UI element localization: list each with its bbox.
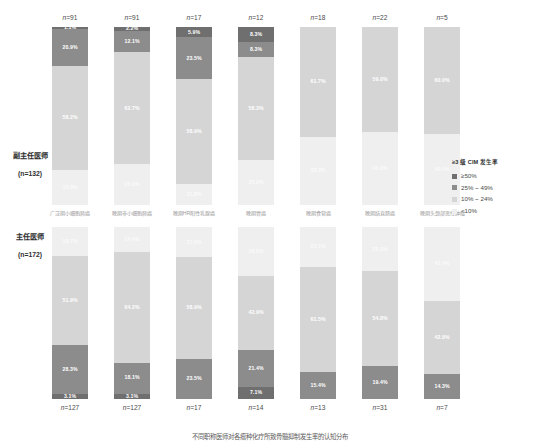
bar-segment[interactable]: 7.1%: [238, 387, 274, 399]
bar-segment-label: 8.3%: [250, 47, 262, 52]
stacked-bar[interactable]: 59.0%41.0%: [362, 27, 398, 205]
stacked-bar[interactable]: 25.8%54.8%19.4%: [362, 227, 398, 399]
bar-segment[interactable]: 21.4%: [238, 350, 274, 387]
bar-segment[interactable]: 58.9%: [176, 79, 212, 184]
bar-segment[interactable]: 61.7%: [300, 27, 336, 137]
bar-segment[interactable]: 25.0%: [238, 160, 274, 205]
stacked-bar[interactable]: 1.1%20.9%58.2%19.8%: [52, 27, 88, 205]
bar-segment[interactable]: 20.9%: [52, 29, 88, 66]
bar-segment-label: 21.4%: [248, 366, 263, 371]
bar-segment[interactable]: 19.8%: [52, 170, 88, 205]
bar-segment-label: 58.3%: [248, 106, 263, 111]
bar-segment[interactable]: 8.3%: [238, 42, 274, 57]
bar-segment[interactable]: 42.9%: [238, 276, 274, 350]
bar-segment-label: 42.9%: [434, 335, 449, 340]
stacked-bar[interactable]: 23.1%61.5%15.4%: [300, 227, 336, 399]
bar-column[interactable]: 5.9%23.5%58.9%11.8%: [176, 27, 212, 205]
bar-column[interactable]: 42.9%42.9%14.3%: [424, 227, 460, 399]
bar-segment[interactable]: 3.1%: [52, 394, 88, 399]
bar-segment-label: 38.3%: [310, 168, 325, 173]
bar-segment[interactable]: 64.2%: [114, 252, 150, 362]
bar-column[interactable]: 23.1%61.5%15.4%: [300, 227, 336, 399]
bar-column[interactable]: 61.7%38.3%: [300, 27, 336, 205]
bar-segment[interactable]: 58.2%: [52, 66, 88, 170]
bar-segment[interactable]: 41.0%: [362, 132, 398, 205]
bar-column[interactable]: 25.8%54.8%19.4%: [362, 227, 398, 399]
bar-segment[interactable]: 23.0%: [114, 164, 150, 205]
row-label-deputy-chief-physician: 副主任医师: [6, 152, 54, 160]
bar-segment[interactable]: 16.7%: [52, 227, 88, 256]
stacked-bar[interactable]: 42.9%42.9%14.3%: [424, 227, 460, 399]
stacked-bar[interactable]: 28.6%42.9%21.4%7.1%: [238, 227, 274, 399]
bar-segment[interactable]: 15.4%: [300, 372, 336, 398]
n-label-top: n=5: [406, 14, 478, 21]
legend-item[interactable]: 10% ~ 24%: [452, 196, 538, 202]
legend-item[interactable]: <10%: [452, 208, 538, 214]
bar-segment[interactable]: 17.6%: [176, 227, 212, 257]
bar-segment[interactable]: 42.9%: [424, 301, 460, 375]
legend-swatch-icon: [452, 174, 457, 179]
legend-item[interactable]: 25% ~ 49%: [452, 185, 538, 191]
bar-segment-label: 14.6%: [124, 237, 139, 242]
bar-column[interactable]: 28.6%42.9%21.4%7.1%: [238, 227, 274, 399]
bar-segment-label: 58.2%: [62, 115, 77, 120]
bar-segment[interactable]: 62.7%: [114, 52, 150, 164]
bar-segment[interactable]: 3.1%: [114, 394, 150, 399]
legend-item[interactable]: ≥50%: [452, 173, 538, 179]
bar-segment[interactable]: 25.8%: [362, 227, 398, 271]
bar-segment[interactable]: 58.9%: [176, 257, 212, 358]
bar-segment[interactable]: 23.5%: [176, 359, 212, 399]
bar-column[interactable]: 17.6%58.9%23.5%: [176, 227, 212, 399]
bar-column[interactable]: 1.1%20.9%58.2%19.8%: [52, 27, 88, 205]
bar-segment[interactable]: 23.1%: [300, 227, 336, 267]
bar-segment[interactable]: 38.3%: [300, 137, 336, 205]
row-sublabel-deputy-chief-physician: (n=132): [6, 170, 54, 177]
stacked-bar[interactable]: 5.9%23.5%58.9%11.8%: [176, 27, 212, 205]
bar-segment[interactable]: 59.0%: [362, 27, 398, 132]
bar-segment-label: 62.7%: [124, 106, 139, 111]
bar-segment[interactable]: 5.9%: [176, 27, 212, 37]
bar-column[interactable]: 59.0%41.0%: [362, 27, 398, 205]
bar-segment[interactable]: 8.3%: [238, 27, 274, 42]
stacked-bar[interactable]: 8.3%8.3%58.3%25.0%: [238, 27, 274, 205]
bar-column[interactable]: 14.6%64.2%18.1%3.1%: [114, 227, 150, 399]
bar-segment-label: 20.9%: [62, 45, 77, 50]
bar-segment[interactable]: 28.6%: [238, 227, 274, 276]
bar-segment[interactable]: 60.0%: [424, 27, 460, 134]
bar-segment-label: 16.7%: [62, 239, 77, 244]
bar-segment[interactable]: 18.1%: [114, 363, 150, 394]
bar-segment[interactable]: 61.5%: [300, 267, 336, 373]
bar-column[interactable]: 16.7%51.9%28.3%3.1%: [52, 227, 88, 399]
bar-segment[interactable]: 12.1%: [114, 31, 150, 53]
bar-segment[interactable]: 51.9%: [52, 256, 88, 345]
legend-item-label: <10%: [461, 208, 477, 214]
row-sublabel-chief-physician: (n=172): [6, 251, 54, 258]
legend-swatch-icon: [452, 185, 457, 190]
bar-segment-label: 61.7%: [310, 79, 325, 84]
bar-segment-label: 5.9%: [188, 30, 200, 35]
bar-segment[interactable]: 28.3%: [52, 345, 88, 394]
bar-segment-label: 3.1%: [64, 394, 76, 399]
bar-segment-label: 28.6%: [248, 249, 263, 254]
bar-segment[interactable]: 14.6%: [114, 227, 150, 252]
bar-segment-label: 25.8%: [372, 247, 387, 252]
bar-column[interactable]: 8.3%8.3%58.3%25.0%: [238, 27, 274, 205]
bar-segment-label: 40.0%: [434, 167, 449, 172]
bar-segment[interactable]: 58.3%: [238, 57, 274, 161]
stacked-bar[interactable]: 14.6%64.2%18.1%3.1%: [114, 227, 150, 399]
bar-segment[interactable]: 54.8%: [362, 271, 398, 365]
bar-segment[interactable]: 19.4%: [362, 366, 398, 399]
bar-column[interactable]: 2.2%12.1%62.7%23.0%: [114, 27, 150, 205]
bar-segment[interactable]: 42.9%: [424, 227, 460, 301]
bar-segment-label: 23.0%: [124, 182, 139, 187]
bar-segment-label: 7.1%: [250, 390, 262, 395]
stacked-bar[interactable]: 17.6%58.9%23.5%: [176, 227, 212, 399]
legend-swatch-icon: [452, 209, 457, 214]
stacked-bar[interactable]: 2.2%12.1%62.7%23.0%: [114, 27, 150, 205]
stacked-bar[interactable]: 16.7%51.9%28.3%3.1%: [52, 227, 88, 399]
bar-segment[interactable]: 23.5%: [176, 37, 212, 79]
stacked-bar[interactable]: 61.7%38.3%: [300, 27, 336, 205]
bar-segment[interactable]: 14.3%: [424, 374, 460, 399]
bar-segment[interactable]: 11.8%: [176, 184, 212, 205]
row-label-chief-physician: 主任医师: [6, 233, 54, 241]
